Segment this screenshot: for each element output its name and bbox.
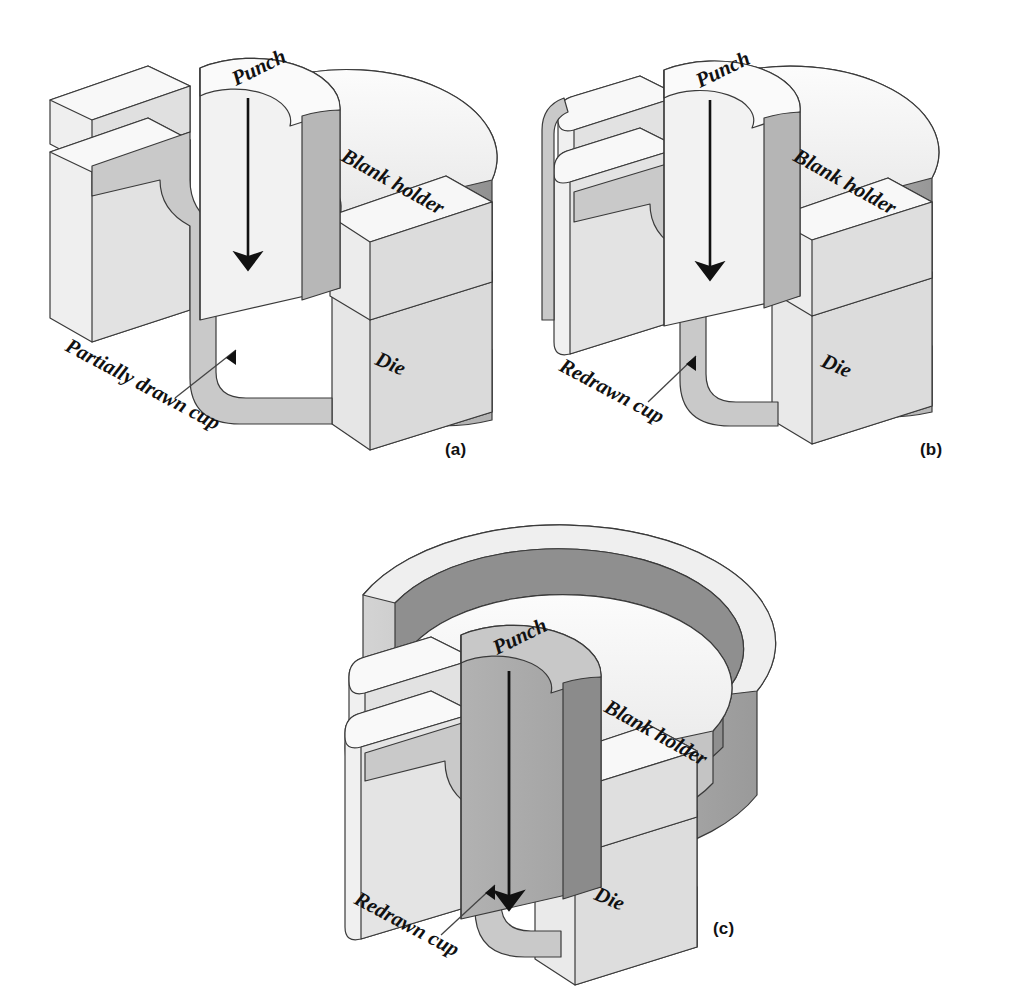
panel-c: Punch Blank holder Die Redrawn cup (c) bbox=[245, 495, 805, 995]
panel-caption-b: (b) bbox=[920, 440, 942, 460]
panel-a: Punch Blank holder Die Partially drawn c… bbox=[40, 20, 510, 480]
leader-arrowhead-workpiece-a bbox=[226, 350, 236, 365]
label-redrawn-cup-b: Redrawn cup bbox=[555, 353, 669, 429]
figure-canvas: Punch Blank holder Die Partially drawn c… bbox=[0, 0, 1022, 1002]
punch-b-side bbox=[764, 112, 800, 308]
punch-a-side bbox=[302, 110, 340, 300]
panel-a-drawing: Punch Blank holder Die Partially drawn c… bbox=[40, 20, 510, 480]
panel-caption-a: (a) bbox=[445, 440, 466, 460]
panel-b: Punch Blank holder Die Redrawn cup (b) bbox=[520, 20, 990, 480]
panel-b-drawing: Punch Blank holder Die Redrawn cup bbox=[520, 20, 990, 480]
punch-c-side bbox=[563, 677, 601, 899]
panel-caption-c: (c) bbox=[713, 919, 734, 939]
